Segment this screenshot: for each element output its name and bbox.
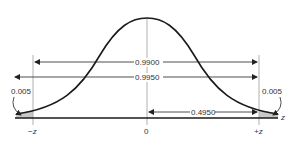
center-tick: 0 bbox=[144, 127, 148, 136]
left-z-tick: −z bbox=[28, 127, 37, 136]
right-z-tick: +z bbox=[254, 127, 263, 136]
right-tail-label: 0.005 bbox=[262, 87, 282, 96]
normal-curve-figure: 0.9900 0.9950 0.4950 0.005 0.005 −z 0 +z… bbox=[0, 0, 297, 146]
outer-interval-label: 0.9950 bbox=[135, 73, 159, 82]
inner-interval-label: 0.9900 bbox=[135, 58, 159, 67]
half-interval-label: 0.4950 bbox=[191, 108, 215, 117]
left-tail-label: 0.005 bbox=[11, 87, 31, 96]
axis-label-z: z bbox=[281, 113, 285, 122]
